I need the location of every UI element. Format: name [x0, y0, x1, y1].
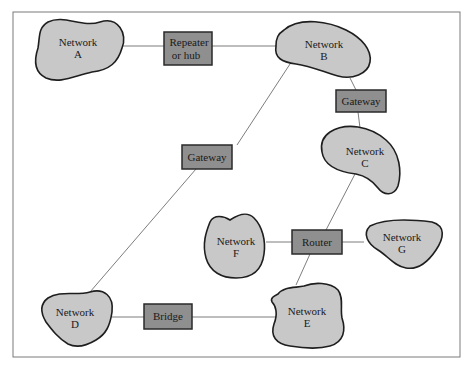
gateway-b-c: Gateway: [336, 90, 386, 112]
network-b-label-line1: Network: [305, 38, 344, 50]
network-g-label-line1: Network: [383, 231, 422, 243]
network-d-label-line1: Network: [56, 306, 95, 318]
router: Router: [292, 230, 342, 254]
network-e: Network E: [271, 283, 343, 348]
network-f-label-line1: Network: [217, 235, 256, 247]
gateway-b-d: Gateway: [182, 145, 232, 169]
network-d-label-line2: D: [71, 318, 79, 330]
router-label: Router: [302, 236, 332, 248]
network-f: Network F: [204, 214, 264, 278]
network-diagram: Network A Repeater or hub Network B Gate…: [0, 0, 466, 365]
bridge: Bridge: [144, 304, 192, 329]
repeater-or-hub: Repeater or hub: [164, 32, 212, 65]
network-c-label-line1: Network: [346, 145, 385, 157]
network-b-label-line2: B: [320, 50, 327, 62]
repeater-label-line2: or hub: [172, 49, 201, 61]
gateway-bd-label: Gateway: [187, 151, 227, 163]
repeater-label-line1: Repeater: [169, 36, 208, 48]
network-e-label-line1: Network: [288, 305, 327, 317]
network-g-label-line2: G: [398, 243, 406, 255]
network-a-label-line2: A: [74, 48, 82, 60]
network-e-label-line2: E: [304, 317, 311, 329]
network-f-label-line2: F: [233, 247, 239, 259]
gateway-bc-label: Gateway: [341, 95, 381, 107]
network-c-label-line2: C: [361, 157, 368, 169]
network-a-label-line1: Network: [59, 36, 98, 48]
bridge-label: Bridge: [153, 310, 183, 322]
